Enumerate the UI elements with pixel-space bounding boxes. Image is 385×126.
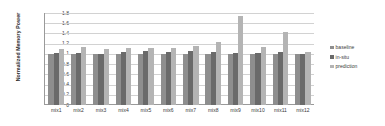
bar-prediction [261,47,266,105]
legend-item-baseline[interactable]: baseline [330,45,357,50]
y-axis-title: Normalized Memory Power [15,0,21,95]
x-axis-tick-label: mix8 [202,108,224,113]
bar-group [45,13,67,105]
bar-group [224,13,246,105]
legend-label: in-situ [336,55,349,60]
bar-group [292,13,314,105]
bar-prediction [283,32,288,105]
x-axis-tick-label: mix6 [157,108,179,113]
bar-prediction [305,52,310,105]
x-axis-tick-label: mix4 [112,108,134,113]
x-axis-tick-label: mix11 [269,108,291,113]
x-axis-tick-label: mix7 [180,108,202,113]
legend-label: baseline [336,45,355,50]
bar-group [157,13,179,105]
bar-group [112,13,134,105]
bar-prediction [59,49,64,105]
chart-legend: baselinein-situprediction [330,45,357,69]
bar-group [269,13,291,105]
bar-group [135,13,157,105]
bar-group [247,13,269,105]
x-axis-tick-label: mix10 [247,108,269,113]
legend-swatch-insitu [330,55,334,59]
bar-group [67,13,89,105]
x-axis-tick-label: mix9 [224,108,246,113]
bar-prediction [193,46,198,105]
legend-label: prediction [336,64,358,69]
bar-prediction [171,48,176,105]
legend-swatch-prediction [330,65,334,69]
legend-item-insitu[interactable]: in-situ [330,55,357,60]
bar-groups [45,13,314,105]
legend-swatch-baseline [330,46,334,50]
bar-group [202,13,224,105]
bar-prediction [148,48,153,105]
memory-power-bar-chart: Normalized Memory Power 00.20.40.60.811.… [0,0,385,126]
x-axis-tick-label: mix12 [292,108,314,113]
bar-prediction [126,48,131,105]
x-axis-tick-label: mix1 [45,108,67,113]
bar-prediction [104,49,109,105]
bar-prediction [216,42,221,105]
x-axis-tick-labels: mix1mix2mix3mix4mix5mix6mix7mix8mix9mix1… [45,108,314,113]
x-axis-tick-label: mix3 [90,108,112,113]
bar-prediction [238,16,243,105]
legend-item-prediction[interactable]: prediction [330,64,357,69]
x-axis-tick-label: mix5 [135,108,157,113]
bar-group [90,13,112,105]
x-axis-tick-label: mix2 [67,108,89,113]
bar-group [180,13,202,105]
bar-prediction [81,47,86,105]
